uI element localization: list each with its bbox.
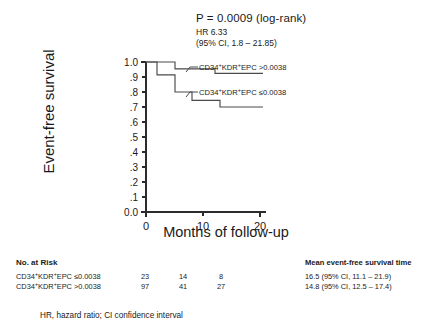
- risk-row-label: CD34+KDR+EPC >0.0038: [16, 282, 126, 292]
- footnote-text: HR, hazard ratio; CI confidence interval: [40, 311, 183, 320]
- risk-count: 27: [202, 282, 240, 292]
- y-tick-label: .3: [130, 162, 139, 173]
- y-tick-label: .8: [130, 87, 139, 98]
- y-tick-label: .5: [130, 132, 139, 143]
- x-axis-title: Months of follow-up: [126, 224, 326, 240]
- risk-row-label: CD34+KDR+EPC ≤0.0038: [16, 272, 126, 282]
- y-tick-labels: 1.0 .9 .8 .7 .6 .5 .4 .3 .2 .1 0.0: [124, 57, 138, 218]
- risk-table: CD34+KDR+EPC ≤0.0038 23 14 8 CD34+KDR+EP…: [16, 272, 240, 292]
- risk-count: 41: [164, 282, 202, 292]
- table-row: 16.5 (95% CI, 11.1 – 21.9): [305, 272, 392, 282]
- mean-survival-value: 16.5 (95% CI, 11.1 – 21.9): [305, 272, 392, 282]
- mean-survival-table: 16.5 (95% CI, 11.1 – 21.9) 14.8 (95% CI,…: [305, 272, 392, 292]
- risk-table-heading: No. at Risk: [16, 258, 57, 267]
- table-row: CD34+KDR+EPC >0.0038 97 41 27: [16, 282, 240, 292]
- y-tick-label: .2: [130, 177, 139, 188]
- mean-survival-heading: Mean event-free survival time: [305, 258, 411, 267]
- y-tick-label: .4: [130, 147, 139, 158]
- y-tick-label: .9: [130, 72, 139, 83]
- y-tick-label: .6: [130, 117, 139, 128]
- kaplan-meier-plot: 1.0 .9 .8 .7 .6 .5 .4 .3 .2 .1 0.0 0 10 …: [0, 0, 443, 248]
- plot-svg: 1.0 .9 .8 .7 .6 .5 .4 .3 .2 .1 0.0 0 10 …: [0, 0, 443, 248]
- risk-count: 23: [126, 272, 164, 282]
- risk-count: 97: [126, 282, 164, 292]
- curve-label-leader-high: [186, 67, 198, 72]
- y-tick-label: .1: [130, 192, 139, 203]
- curve-label-low: CD34+KDR+EPC ≤0.0038: [199, 87, 286, 97]
- y-axis-title: Event-free survival: [40, 17, 57, 207]
- y-tick-label: 0.0: [124, 207, 138, 218]
- mean-survival-value: 14.8 (95% CI, 12.5 – 17.4): [305, 282, 392, 292]
- y-tick-label: 1.0: [124, 57, 138, 68]
- risk-count: 8: [202, 272, 240, 282]
- table-row: 14.8 (95% CI, 12.5 – 17.4): [305, 282, 392, 292]
- curve-label-high: CD34+KDR+EPC >0.0038: [199, 62, 286, 72]
- risk-count: 14: [164, 272, 202, 282]
- axis-lines: [146, 62, 266, 212]
- table-row: CD34+KDR+EPC ≤0.0038 23 14 8: [16, 272, 240, 282]
- y-tick-label: .7: [130, 102, 139, 113]
